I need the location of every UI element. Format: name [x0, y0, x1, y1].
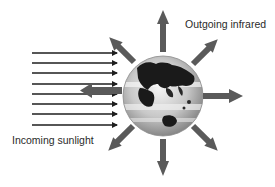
energy-balance-diagram: Outgoing infrared Incoming sunlight — [0, 0, 275, 187]
reflected-arrow-icon — [80, 83, 122, 98]
infrared-arrow-down-icon — [157, 139, 169, 176]
earth-globe-icon — [120, 56, 210, 136]
outgoing-infrared-label: Outgoing infrared — [185, 18, 266, 30]
infrared-arrow-down-right-icon — [189, 122, 222, 155]
incoming-sunlight-label: Incoming sunlight — [12, 134, 94, 146]
infrared-arrow-down-left-icon — [104, 122, 137, 155]
infrared-arrow-up-icon — [157, 10, 169, 52]
infrared-arrow-right-icon — [203, 89, 243, 103]
infrared-arrow-up-right-icon — [189, 35, 222, 68]
infrared-arrow-up-left-icon — [105, 33, 138, 66]
